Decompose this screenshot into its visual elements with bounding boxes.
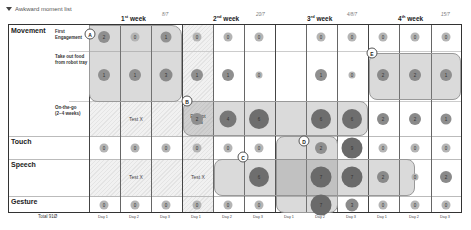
dot-cell[interactable]: 4 xyxy=(220,111,237,128)
dot-cell[interactable]: 3 xyxy=(160,69,173,82)
row-divider xyxy=(9,196,461,197)
dot-cell[interactable]: 0 xyxy=(224,33,233,42)
test-x-on-the-go: Test X xyxy=(129,116,143,122)
list-title: Awkward moment list xyxy=(15,6,72,12)
dot-cell[interactable]: 0 xyxy=(348,33,357,42)
dot-cell[interactable]: 0 xyxy=(193,33,202,42)
dot-cell[interactable]: 6 xyxy=(311,109,331,129)
dot-cell[interactable]: 0 xyxy=(131,201,140,210)
dot-cell[interactable]: 0 xyxy=(442,201,451,210)
sub-take-out-food: Take out food from robot tray xyxy=(55,54,89,65)
dot-cell[interactable]: 0 xyxy=(100,144,109,153)
day-label: Day 3 xyxy=(346,215,356,219)
dot-cell[interactable]: 7 xyxy=(342,167,363,188)
tag-a[interactable]: A xyxy=(85,29,96,40)
dot-cell[interactable]: 0 xyxy=(162,144,171,153)
dot-cell[interactable]: 0 xyxy=(442,33,451,42)
sub-first-engagement: First Engagement xyxy=(55,29,85,40)
day-label: Day 1 xyxy=(98,215,108,219)
week-1-label: 1st week xyxy=(121,14,146,22)
dot-cell[interactable]: 0 xyxy=(317,33,326,42)
category-touch: Touch xyxy=(11,138,31,145)
week-2-label: 2nd week xyxy=(213,14,239,22)
tag-b[interactable]: B xyxy=(182,96,193,107)
tag-c[interactable]: C xyxy=(238,152,249,163)
category-gesture: Gesture xyxy=(11,198,37,205)
week-4-label: 4th week xyxy=(398,14,423,22)
dot-cell[interactable]: 0 xyxy=(224,201,233,210)
sub-on-the-go: On-the-go (2~4 weeks) xyxy=(55,105,85,116)
week-2-date: 20/7 xyxy=(256,12,265,17)
dot-cell[interactable]: 7 xyxy=(311,195,332,216)
dot-cell[interactable]: 0 xyxy=(411,33,420,42)
total-label: Total 91Ø xyxy=(38,214,57,219)
day-label: Day 3 xyxy=(160,215,170,219)
dot-cell[interactable]: 0 xyxy=(411,144,420,153)
dot-cell[interactable]: 1 xyxy=(129,69,141,81)
dot-cell[interactable]: 1 xyxy=(222,69,234,81)
dot-cell[interactable]: 1 xyxy=(161,32,172,43)
dot-cell[interactable]: 1 xyxy=(440,69,452,81)
dot-cell[interactable]: 0 xyxy=(379,201,388,210)
day-label: Day 2 xyxy=(409,215,419,219)
awkward-moment-table: Movement First Engagement Take out food … xyxy=(8,24,462,213)
dot-cell[interactable]: 0 xyxy=(131,144,140,153)
row-divider xyxy=(9,136,461,137)
day-label: Day 1 xyxy=(191,215,201,219)
category-movement: Movement xyxy=(11,27,46,34)
test-x-speech-1: Test X xyxy=(129,174,143,180)
dot-cell[interactable]: 1 xyxy=(191,69,203,81)
dot-cell[interactable]: 0 xyxy=(411,201,420,210)
day-label: Day 3 xyxy=(440,215,450,219)
week-3-label: 3rd week xyxy=(307,14,332,22)
dot-cell[interactable]: 2 xyxy=(315,142,327,154)
dot-cell[interactable]: 6 xyxy=(342,109,362,129)
dot-cell[interactable]: 2 xyxy=(409,113,421,125)
day-label: Day 3 xyxy=(253,215,263,219)
dot-cell[interactable]: 0 xyxy=(255,201,264,210)
dot-cell[interactable]: 0 xyxy=(256,72,263,79)
day-label: Day 2 xyxy=(222,215,232,219)
tag-e[interactable]: E xyxy=(367,48,378,59)
day-label: Day 1 xyxy=(377,215,387,219)
week-3-date: 4/8/7 xyxy=(347,12,357,17)
region-b xyxy=(183,101,368,136)
dot-cell[interactable]: 0 xyxy=(131,33,140,42)
dot-cell[interactable]: 1 xyxy=(441,114,452,125)
collapse-triangle-icon[interactable] xyxy=(6,7,12,11)
dot-cell[interactable]: 2 xyxy=(377,171,389,183)
dot-cell[interactable]: 2 xyxy=(377,113,389,125)
dot-cell[interactable]: 2 xyxy=(191,113,203,125)
dot-cell[interactable]: 2 xyxy=(98,31,110,43)
dot-cell[interactable]: 0 xyxy=(162,201,171,210)
dot-cell[interactable]: 7 xyxy=(311,167,332,188)
dot-cell[interactable]: 0 xyxy=(193,144,202,153)
list-header[interactable]: Awkward moment list xyxy=(6,6,72,12)
dot-cell[interactable]: 0 xyxy=(100,201,109,210)
test-x-speech-2: Test X xyxy=(191,174,205,180)
dot-cell[interactable]: 0 xyxy=(379,33,388,42)
dot-cell[interactable]: 0 xyxy=(255,33,264,42)
dot-cell[interactable]: 0 xyxy=(255,144,264,153)
dot-cell[interactable]: 0 xyxy=(379,144,388,153)
dot-cell[interactable]: 0 xyxy=(224,144,233,153)
dot-cell[interactable]: 2 xyxy=(377,69,389,81)
day-label: Day 2 xyxy=(129,215,139,219)
dot-cell[interactable]: 3 xyxy=(346,199,359,212)
day-label: Day 1 xyxy=(284,215,294,219)
day-label: Day 2 xyxy=(315,215,325,219)
dot-cell[interactable]: 6 xyxy=(249,167,269,187)
dot-cell[interactable]: 6 xyxy=(249,109,269,129)
dot-cell[interactable]: 2 xyxy=(440,171,452,183)
week-4-date: 15/7 xyxy=(441,12,450,17)
dot-cell[interactable]: 1 xyxy=(98,69,110,81)
dot-cell[interactable]: 0 xyxy=(349,72,356,79)
dot-cell[interactable]: 1 xyxy=(315,69,327,81)
dot-cell[interactable]: 0 xyxy=(412,174,419,181)
dot-cell[interactable]: 0 xyxy=(193,201,202,210)
dot-cell[interactable]: 2 xyxy=(409,69,421,81)
week-1-date: 8/7 xyxy=(162,12,168,17)
dot-cell[interactable]: 9 xyxy=(342,138,363,159)
dot-cell[interactable]: 0 xyxy=(442,144,451,153)
tag-d[interactable]: D xyxy=(299,136,310,147)
